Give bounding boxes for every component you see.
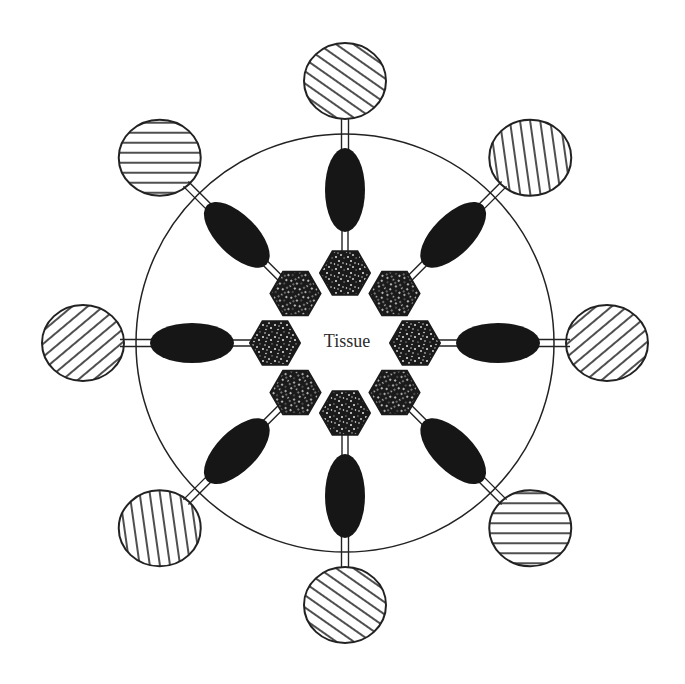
black-ellipse-body — [325, 148, 365, 232]
unit-n — [304, 43, 386, 295]
unit-w — [42, 305, 300, 381]
black-ellipse-body — [150, 323, 234, 363]
unit-sw — [81, 336, 352, 607]
speckled-hexagon-core — [360, 358, 428, 426]
speckled-hexagon-core — [261, 358, 329, 426]
hatched-outer-circle — [304, 567, 386, 643]
black-ellipse-body — [409, 191, 497, 279]
black-ellipse-body — [325, 454, 365, 538]
hatched-outer-circle — [566, 305, 648, 381]
tissue-label: Tissue — [309, 331, 385, 352]
unit-ne — [338, 79, 609, 350]
diagram-canvas: Tissue — [0, 0, 685, 684]
hatched-outer-circle — [119, 490, 201, 566]
speckled-hexagon-core — [390, 321, 440, 364]
hatched-outer-circle — [489, 490, 571, 566]
black-ellipse-body — [409, 407, 497, 495]
speckled-hexagon-core — [360, 259, 428, 327]
hatched-outer-circle — [304, 43, 386, 119]
speckled-hexagon-core — [250, 321, 300, 364]
hatched-outer-circle — [119, 120, 201, 196]
black-ellipse-body — [193, 191, 281, 279]
unit-s — [304, 391, 386, 643]
black-ellipse-body — [456, 323, 540, 363]
speckled-hexagon-core — [261, 259, 329, 327]
speckled-hexagon-core — [320, 251, 370, 294]
unit-e — [390, 305, 648, 381]
hatched-outer-circle — [42, 305, 124, 381]
hatched-outer-circle — [489, 120, 571, 196]
unit-se — [338, 336, 609, 607]
speckled-hexagon-core — [320, 391, 370, 434]
black-ellipse-body — [193, 407, 281, 495]
unit-nw — [81, 79, 352, 350]
